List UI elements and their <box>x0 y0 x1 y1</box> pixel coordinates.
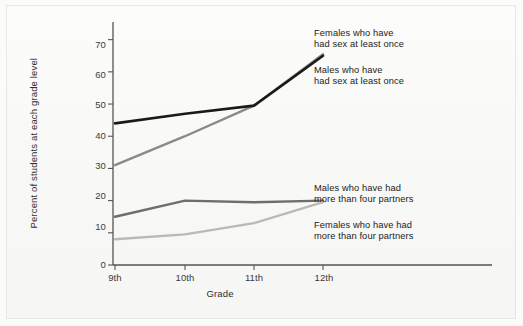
y-tick-label: 70 <box>84 39 106 50</box>
x-tick-label: 11th <box>234 272 274 283</box>
series-line <box>115 202 323 239</box>
y-tick-label: 40 <box>84 130 106 141</box>
annotation-males-four-partners: Males who have had more than four partne… <box>314 183 413 206</box>
y-tick-label: 10 <box>84 221 106 232</box>
x-axis-title: Grade <box>180 288 260 299</box>
x-tick-label: 12th <box>304 272 344 283</box>
series-line <box>115 56 323 124</box>
chart-figure: 70 60 50 40 30 20 10 0 9th 10th 11th 12t… <box>0 0 523 326</box>
annotation-males-sex-once: Males who have had sex at least once <box>314 65 404 88</box>
x-axis-ticks <box>115 265 323 270</box>
y-tick-label: 50 <box>84 99 106 110</box>
annotation-females-four-partners: Females who have had more than four part… <box>314 220 413 243</box>
y-axis-title: Percent of students at each grade level <box>28 59 39 229</box>
data-series-lines <box>115 54 323 239</box>
y-tick-label: 0 <box>84 259 106 270</box>
y-axis-ticks <box>108 40 113 265</box>
y-tick-label: 60 <box>84 69 106 80</box>
x-tick-label: 9th <box>95 272 135 283</box>
y-tick-label: 20 <box>84 190 106 201</box>
annotation-females-sex-once: Females who have had sex at least once <box>314 28 404 51</box>
series-line <box>115 201 323 217</box>
y-tick-label: 30 <box>84 160 106 171</box>
x-tick-label: 10th <box>165 272 205 283</box>
